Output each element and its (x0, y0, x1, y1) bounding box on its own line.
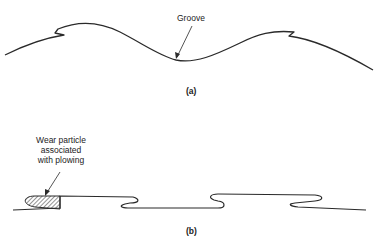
surface-profile-a (5, 23, 373, 70)
wear-particle-label: Wear particle associated with plowing (32, 135, 90, 165)
diagram-canvas (0, 0, 386, 243)
wear-particle-arrow (45, 172, 60, 196)
surface-profile-b (13, 194, 366, 210)
wear-particle-label-line-2: associated (32, 145, 90, 155)
groove-arrow (175, 26, 192, 59)
groove-label: Groove (177, 13, 205, 23)
wear-particle-label-line-1: Wear particle (32, 135, 90, 145)
panel-b-caption: (b) (186, 226, 197, 236)
panel-a-caption: (a) (186, 86, 196, 96)
wear-particle (25, 196, 60, 209)
wear-particle-label-line-3: with plowing (32, 155, 90, 165)
